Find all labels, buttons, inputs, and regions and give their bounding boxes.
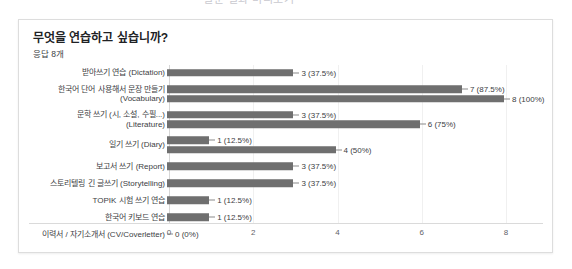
- category-label: TOPIK 시험 쓰기 연습: [29, 196, 167, 206]
- x-axis: 02468: [29, 223, 543, 243]
- bar-value-label: 7 (87.5%): [470, 85, 505, 94]
- category-label: 문학 쓰기 (시, 소설, 수필...) (Literature): [29, 110, 167, 129]
- bar-zone: 7 (87.5%)8 (100%): [167, 82, 543, 106]
- bar-chart-plot: 받아쓰기 연습 (Dictation)3 (37.5%)한국어 단어 사용해서 …: [29, 65, 543, 243]
- bar[interactable]: [167, 136, 209, 144]
- clipped-header-text: 설문 결과 미리보기: [203, 0, 294, 6]
- bar-value-connector: [209, 217, 215, 218]
- x-tick-label-2: 2: [251, 228, 255, 238]
- category-label: 한국어 키보드 연습: [29, 213, 167, 223]
- chart-header: 무엇을 연습하고 싶습니까? 응답 8개: [33, 31, 168, 60]
- category-label: 받아쓰기 연습 (Dictation): [29, 68, 167, 78]
- bar-value-label: 8 (100%): [512, 94, 544, 103]
- bar-value-label: 3 (37.5%): [301, 110, 336, 119]
- chart-row: 스토리텔링 긴 글쓰기 (Storytelling)3 (37.5%): [29, 176, 543, 192]
- category-label: 한국어 단어 사용해서 문장 만들기 (Vocabulary): [29, 85, 167, 104]
- bar-value-label: 4 (50%): [344, 145, 372, 154]
- bar[interactable]: [167, 95, 504, 103]
- bar-value-label: 6 (75%): [428, 120, 456, 129]
- chart-row: 받아쓰기 연습 (Dictation)3 (37.5%): [29, 65, 543, 81]
- bar-zone: 3 (37.5%)6 (75%): [167, 108, 543, 132]
- bar-value-connector: [293, 72, 299, 73]
- chart-title: 무엇을 연습하고 싶습니까?: [33, 31, 168, 46]
- x-tick-label-6: 6: [420, 228, 424, 238]
- bar[interactable]: [167, 163, 293, 171]
- category-label: 스토리텔링 긴 글쓰기 (Storytelling): [29, 179, 167, 189]
- x-tick-label-8: 8: [504, 228, 508, 238]
- bar[interactable]: [167, 111, 293, 119]
- bar-value-connector: [209, 200, 215, 201]
- chart-row: 일기 쓰기 (Diary)1 (12.5%)4 (50%): [29, 133, 543, 157]
- bar-zone: 1 (12.5%): [167, 193, 543, 209]
- bar[interactable]: [167, 146, 336, 154]
- bar[interactable]: [167, 85, 462, 93]
- bar-zone: 1 (12.5%)4 (50%): [167, 133, 543, 157]
- bar-value-connector: [209, 140, 215, 141]
- bar[interactable]: [167, 180, 293, 188]
- chart-row: 보고서 쓰기 (Report)3 (37.5%): [29, 159, 543, 175]
- category-label: 보고서 쓰기 (Report): [29, 162, 167, 172]
- bar-zone: 3 (37.5%): [167, 65, 543, 81]
- bar-zone: 3 (37.5%): [167, 176, 543, 192]
- bar[interactable]: [167, 214, 209, 222]
- bar[interactable]: [167, 121, 420, 129]
- bar[interactable]: [167, 69, 293, 77]
- bar-value-label: 1 (12.5%): [217, 136, 252, 145]
- bar-value-connector: [293, 166, 299, 167]
- chart-row: TOPIK 시험 쓰기 연습1 (12.5%): [29, 193, 543, 209]
- bar-value-connector: [293, 114, 299, 115]
- x-axis-line: [29, 223, 543, 224]
- bar-value-label: 3 (37.5%): [301, 68, 336, 77]
- bar-value-connector: [462, 89, 468, 90]
- chart-card: 무엇을 연습하고 싶습니까? 응답 8개 받아쓰기 연습 (Dictation)…: [18, 19, 553, 253]
- bar-value-label: 1 (12.5%): [217, 213, 252, 222]
- bar-value-label: 3 (37.5%): [301, 162, 336, 171]
- bar-value-connector: [293, 183, 299, 184]
- chart-row: 문학 쓰기 (시, 소설, 수필...) (Literature)3 (37.5…: [29, 108, 543, 132]
- bar-value-connector: [504, 98, 510, 99]
- clipped-header-strip: 설문 결과 미리보기: [0, 0, 572, 7]
- x-tick-label-4: 4: [335, 228, 339, 238]
- x-tick-label-0: 0: [167, 228, 171, 238]
- chart-response-count: 응답 8개: [33, 49, 168, 60]
- chart-row: 한국어 단어 사용해서 문장 만들기 (Vocabulary)7 (87.5%)…: [29, 82, 543, 106]
- category-label: 일기 쓰기 (Diary): [29, 140, 167, 150]
- bar[interactable]: [167, 197, 209, 205]
- bar-zone: 3 (37.5%): [167, 159, 543, 175]
- bar-value-label: 1 (12.5%): [217, 196, 252, 205]
- bar-value-connector: [336, 149, 342, 150]
- bar-value-connector: [420, 124, 426, 125]
- chart-bar-rows: 받아쓰기 연습 (Dictation)3 (37.5%)한국어 단어 사용해서 …: [29, 65, 543, 244]
- bar-value-label: 3 (37.5%): [301, 179, 336, 188]
